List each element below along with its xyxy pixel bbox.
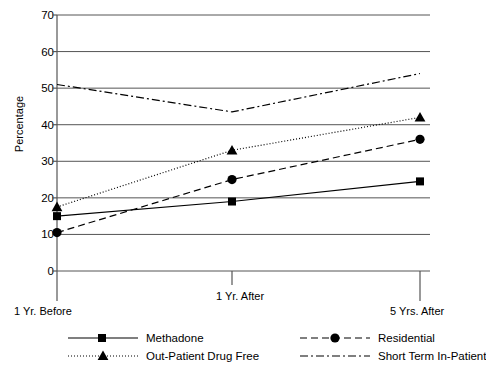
data-point-residential-1	[227, 175, 236, 184]
legend-label-short-term-in-patient: Short Term In-Patient	[378, 350, 486, 362]
legend-label-methadone: Methadone	[146, 332, 204, 344]
legend-swatch-residential	[300, 333, 370, 342]
data-point-methadone-1	[228, 198, 236, 206]
series-line-out-patient-drug-free	[57, 117, 420, 207]
data-point-residential-0	[52, 228, 61, 237]
legend-swatch-methadone	[68, 334, 138, 342]
legend-label-residential: Residential	[378, 332, 435, 344]
series-line-residential	[57, 139, 420, 232]
data-point-out-patient-drug-free-1	[227, 145, 238, 155]
data-point-methadone-2	[416, 177, 424, 185]
series-line-short-term-in-patient	[57, 74, 420, 112]
data-point-methadone-0	[53, 212, 61, 220]
legend-label-out-patient-drug-free: Out-Patient Drug Free	[146, 350, 259, 362]
series-line-methadone	[57, 181, 420, 216]
chart-legend: Methadone Residential Out-Patient Drug F…	[0, 330, 467, 365]
data-point-out-patient-drug-free-2	[415, 112, 426, 122]
legend-swatch-out-patient-drug-free	[68, 351, 138, 361]
data-point-residential-2	[415, 135, 424, 144]
